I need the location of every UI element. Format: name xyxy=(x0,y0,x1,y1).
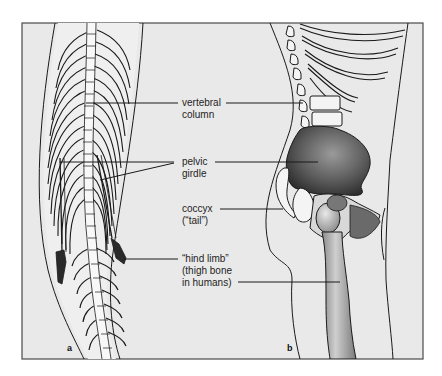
label-line: pelvic xyxy=(182,156,208,168)
label-line: vertebral xyxy=(182,97,221,109)
anatomy-figure: vertebral column pelvic girdle coccyx (“… xyxy=(0,0,442,376)
label-pelvic-girdle: pelvic girdle xyxy=(182,156,208,180)
label-vertebral-column: vertebral column xyxy=(182,97,221,121)
label-line: (“tail”) xyxy=(182,215,213,227)
label-line: “hind limb” xyxy=(182,253,232,265)
label-hind-limb: “hind limb” (thigh bone in humans) xyxy=(182,253,232,289)
label-line: coccyx xyxy=(182,203,213,215)
label-line: column xyxy=(182,109,221,121)
panel-letter-a: a xyxy=(67,343,72,353)
illustration xyxy=(0,0,442,376)
label-coccyx: coccyx (“tail”) xyxy=(182,203,213,227)
label-line: (thigh bone xyxy=(182,265,232,277)
label-line: girdle xyxy=(182,168,208,180)
label-line: in humans) xyxy=(182,277,232,289)
panel-letter-b: b xyxy=(287,343,293,353)
